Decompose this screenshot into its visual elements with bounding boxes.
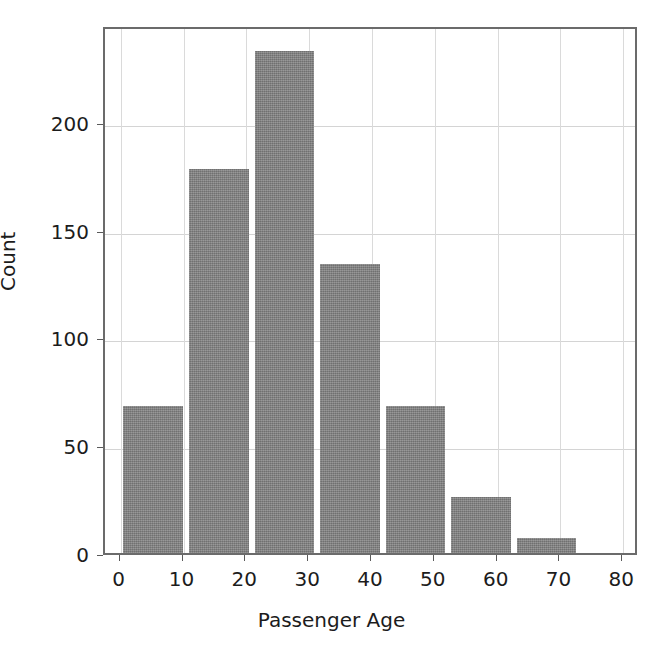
x-axis-title: Passenger Age bbox=[0, 608, 663, 632]
x-axis-tick-label: 50 bbox=[420, 569, 445, 589]
x-axis-tick bbox=[433, 555, 434, 561]
x-axis-tick-label: 80 bbox=[609, 569, 634, 589]
y-axis-tick bbox=[97, 555, 103, 556]
y-axis-tick bbox=[97, 232, 103, 233]
histogram-bar bbox=[255, 51, 315, 553]
histogram-figure: 050100150200 01020304050607080 Count Pas… bbox=[0, 0, 663, 648]
histogram-bar bbox=[386, 406, 445, 553]
x-axis-tick-label: 20 bbox=[232, 569, 257, 589]
y-axis-tick-label: 0 bbox=[0, 545, 89, 565]
x-axis-tick-label: 60 bbox=[483, 569, 508, 589]
x-axis-tick bbox=[244, 555, 245, 561]
histogram-bar bbox=[189, 169, 248, 553]
histogram-bar bbox=[517, 538, 576, 553]
histogram-bar bbox=[123, 406, 183, 553]
x-axis-tick bbox=[119, 555, 120, 561]
x-axis-tick-label: 70 bbox=[546, 569, 571, 589]
y-axis-tick-label: 200 bbox=[0, 114, 89, 134]
x-axis-tick-label: 0 bbox=[112, 569, 125, 589]
x-axis-tick bbox=[496, 555, 497, 561]
x-axis-tick-label: 30 bbox=[294, 569, 319, 589]
y-axis-title: Count bbox=[0, 232, 20, 291]
y-axis-tick bbox=[97, 124, 103, 125]
y-axis-tick bbox=[97, 339, 103, 340]
x-axis-tick-label: 10 bbox=[169, 569, 194, 589]
x-axis-tick-label: 40 bbox=[357, 569, 382, 589]
y-axis-tick bbox=[97, 447, 103, 448]
y-axis-tick-label: 100 bbox=[0, 329, 89, 349]
plot-area bbox=[103, 27, 637, 555]
x-axis-tick bbox=[307, 555, 308, 561]
x-axis-tick bbox=[370, 555, 371, 561]
histogram-bar bbox=[451, 497, 511, 553]
x-axis-tick bbox=[558, 555, 559, 561]
y-axis-tick-label: 50 bbox=[0, 437, 89, 457]
x-axis-tick bbox=[182, 555, 183, 561]
histogram-bar bbox=[320, 264, 379, 553]
x-axis-tick bbox=[621, 555, 622, 561]
bar-series bbox=[105, 29, 635, 553]
